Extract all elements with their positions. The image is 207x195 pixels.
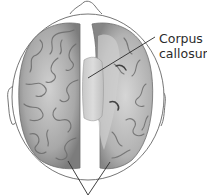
nose-outline	[70, 1, 102, 14]
corpus-callosum	[83, 57, 104, 121]
corpus-callosum-label: Corpus callosum	[159, 31, 207, 61]
brain-diagram: Corpus callosum	[0, 0, 207, 195]
